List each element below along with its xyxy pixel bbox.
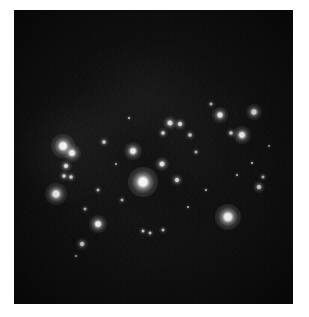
star-point (233, 126, 250, 143)
star-point (155, 157, 170, 172)
star-point (158, 128, 169, 139)
star-point (185, 130, 195, 140)
star-point (63, 144, 82, 163)
star-point (99, 137, 109, 147)
star-point (45, 183, 67, 205)
star-point (126, 115, 132, 121)
nebulosity-patch (68, 187, 191, 242)
star-point (124, 142, 142, 160)
star-point (246, 104, 262, 120)
star-point (73, 253, 79, 259)
film-grain-overlay (14, 10, 293, 304)
star-point (203, 187, 209, 193)
star-point (212, 107, 227, 122)
star-point (60, 160, 73, 173)
star-point (59, 171, 70, 182)
star-point (266, 143, 271, 148)
nebulosity-patch (22, 138, 168, 212)
star-point (249, 160, 255, 166)
star-point (171, 174, 183, 186)
star-point (94, 186, 102, 194)
star-point (163, 116, 177, 130)
star-point (113, 161, 118, 166)
star-point (192, 148, 200, 156)
star-point (215, 204, 242, 231)
star-point (128, 167, 157, 196)
star-field-plate (14, 10, 293, 304)
star-point (159, 226, 167, 234)
star-point (259, 173, 268, 182)
star-point (185, 204, 191, 210)
vignette-overlay (14, 10, 293, 304)
star-point (66, 172, 76, 182)
nebulosity-patch (157, 77, 262, 153)
nebulosity-patch (80, 49, 221, 151)
star-point (118, 196, 125, 203)
star-point (89, 215, 107, 233)
star-point (76, 238, 88, 250)
star-point (226, 128, 236, 138)
star-point (234, 172, 240, 178)
nebulosity-patch (14, 125, 102, 204)
star-point (207, 100, 215, 108)
star-point (81, 205, 88, 212)
star-point (51, 134, 75, 158)
nebulosity-patch (14, 85, 161, 185)
nebulosity-patch (121, 97, 249, 202)
star-point (139, 227, 148, 236)
star-point (146, 229, 154, 237)
star-point (174, 118, 187, 131)
star-point (253, 181, 266, 194)
page-root (0, 0, 309, 317)
